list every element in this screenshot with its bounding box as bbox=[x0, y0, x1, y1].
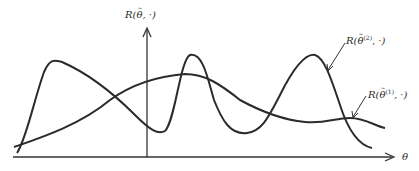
tilde-accent: ~ bbox=[380, 85, 385, 91]
x-axis bbox=[13, 153, 394, 161]
curve-label-theta-2: R(~θ(2), ·) bbox=[346, 35, 385, 46]
superscript: (1) bbox=[385, 88, 394, 95]
curve-label-theta-1: R(~θ(1), ·) bbox=[368, 89, 407, 100]
leader-arrow-theta-2 bbox=[327, 43, 345, 71]
leader-arrow-theta-1 bbox=[352, 96, 366, 118]
label-prefix: R( bbox=[346, 35, 357, 46]
theta-tilde-symbol: ~θ bbox=[379, 90, 385, 100]
theta-tilde-symbol: ~θ bbox=[136, 10, 142, 20]
label-suffix: , ·) bbox=[142, 9, 155, 20]
label-suffix: , ·) bbox=[372, 35, 385, 46]
superscript: (2) bbox=[363, 34, 372, 41]
label-suffix: , ·) bbox=[394, 89, 407, 100]
risk-function-diagram bbox=[0, 0, 419, 171]
x-axis-label: θ bbox=[402, 152, 408, 162]
theta-tilde-symbol: ~θ bbox=[357, 36, 363, 46]
label-prefix: R( bbox=[368, 89, 379, 100]
y-axis bbox=[143, 28, 151, 157]
label-prefix: R( bbox=[125, 9, 136, 20]
tilde-accent: ~ bbox=[358, 31, 363, 37]
curve-r-theta-tilde-1 bbox=[14, 74, 385, 147]
curve-r-theta-tilde bbox=[17, 55, 372, 153]
y-axis-label: R(~θ, ·) bbox=[125, 10, 156, 20]
tilde-accent: ~ bbox=[137, 5, 142, 11]
